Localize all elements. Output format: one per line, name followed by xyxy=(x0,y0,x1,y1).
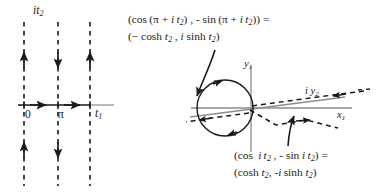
left-axis-label-origin: 0 xyxy=(25,109,31,121)
right-axis-label-x1: x1 xyxy=(337,110,345,122)
left-axis-label-pi: π xyxy=(58,109,64,121)
equation-top-line2: (− cosh t2 , i sinh t2) xyxy=(128,28,269,45)
right-axis-label-iy2: i y2 xyxy=(305,86,319,98)
equation-bottom-line1: (cos i t2 , - sin i t2) = xyxy=(234,147,328,164)
dashed-branch-right-lower-arrow xyxy=(296,120,310,121)
equation-bottom-line2: (cosh t2, -i sinh t2) xyxy=(234,164,328,181)
dashed-branch-right-lower xyxy=(250,110,338,128)
math-figure-complex-cosine-mapping: it2 0 π t1 y1 x1 i y2 (cos (π + i t2) , … xyxy=(0,0,382,194)
leader-arrow-bottom-equation xyxy=(288,116,294,146)
right-panel-group xyxy=(186,50,370,152)
left-axis-label-t1: t1 xyxy=(95,108,102,121)
dashed-branch-left-arrow xyxy=(199,118,212,120)
equation-top-line1: (cos (π + i t2) , - sin (π + i t2)) = xyxy=(128,11,269,28)
left-axis-label-it2: it2 xyxy=(33,5,43,18)
dashed-stub-far-right xyxy=(358,89,370,90)
equation-bottom: (cos i t2 , - sin i t2) = (cosh t2, -i s… xyxy=(234,147,328,181)
iy2-axis-line xyxy=(190,97,345,117)
left-panel-group xyxy=(18,22,114,186)
right-axis-label-y1: y1 xyxy=(244,59,252,71)
equation-top: (cos (π + i t2) , - sin (π + i t2)) = (−… xyxy=(128,11,269,45)
leader-arrow-top-equation xyxy=(197,50,215,96)
dashed-branch-left xyxy=(186,113,249,122)
